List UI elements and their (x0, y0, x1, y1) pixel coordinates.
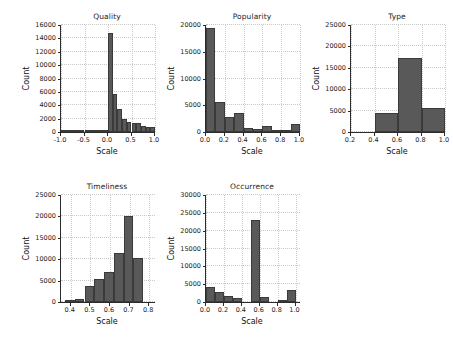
x-axis-tick-label: 0.0 (200, 306, 210, 314)
x-axis-tick-label: 0.8 (271, 306, 281, 314)
x-axis-tick-label: 0.6 (254, 306, 264, 314)
x-axis-tick-label: 0.5 (125, 136, 135, 144)
gridline-vertical (300, 25, 301, 132)
histogram-bar (233, 298, 242, 302)
histogram-bar (287, 290, 296, 302)
plot-area-timeliness (60, 195, 155, 303)
gridline-horizontal (61, 24, 155, 25)
x-axis-tick-label: 0.8 (275, 136, 285, 144)
gridline-vertical (281, 25, 282, 132)
histogram-bar (234, 113, 243, 132)
x-axis-tick-label: -1.0 (54, 136, 67, 144)
x-axis-tick-label: 0.6 (256, 136, 266, 144)
gridline-horizontal (351, 24, 445, 25)
histogram-bar (94, 279, 104, 302)
x-axis-label-popularity: Scale (205, 147, 299, 156)
histogram-bar (224, 296, 233, 302)
chart-panel-popularity: Popularity050001000015000200000.00.20.40… (163, 12, 303, 162)
plot-area-popularity (205, 25, 300, 133)
histogram-bar (150, 127, 155, 132)
histogram-bar (251, 220, 260, 302)
gridline-horizontal (351, 45, 445, 46)
gridline-horizontal (61, 215, 155, 216)
gridline-horizontal (206, 194, 300, 195)
chart-title-occurrence: Occurrence (205, 182, 299, 191)
histogram-bar (206, 28, 215, 132)
gridline-vertical (262, 25, 263, 132)
gridline-vertical (132, 25, 133, 132)
chart-panel-timeliness: Timeliness05000100001500020000250000.40.… (18, 182, 158, 332)
gridline-horizontal (206, 51, 300, 52)
x-axis-tick-label: 0.0 (200, 136, 210, 144)
x-axis-tick-label: 0.5 (84, 306, 94, 314)
y-axis-tick-mark (58, 38, 61, 39)
chart-title-type: Type (350, 12, 444, 21)
histogram-bar (260, 297, 269, 302)
x-axis-tick-label: 0.2 (218, 306, 228, 314)
y-axis-label-occurrence: Count (167, 195, 176, 302)
y-axis-tick-mark (58, 238, 61, 239)
histogram-bar (278, 300, 287, 302)
histogram-bar (281, 130, 290, 132)
histogram-bar (225, 117, 234, 133)
gridline-vertical (149, 195, 150, 302)
x-axis-tick-label: 0.6 (392, 136, 402, 144)
histogram-bar (422, 108, 446, 132)
gridline-vertical (155, 25, 156, 132)
chart-panel-occurrence: Occurrence050001000015000200002500030000… (163, 182, 303, 332)
y-axis-tick-mark (58, 281, 61, 282)
histogram-bar (114, 253, 124, 302)
gridline-horizontal (61, 237, 155, 238)
x-axis-tick-label: 0.0 (102, 136, 112, 144)
x-axis-tick-label: 1.0 (294, 136, 304, 144)
histogram-bar (262, 126, 271, 132)
y-axis-tick-mark (348, 89, 351, 90)
y-axis-tick-mark (203, 195, 206, 196)
gridline-horizontal (61, 194, 155, 195)
x-axis-tick-label: 1.0 (439, 136, 449, 144)
gridline-vertical (85, 25, 86, 132)
histogram-bar (244, 128, 253, 132)
gridline-vertical (61, 25, 62, 132)
chart-title-timeliness: Timeliness (60, 182, 154, 191)
y-axis-tick-mark (58, 65, 61, 66)
y-axis-tick-mark (203, 79, 206, 80)
histogram-bar (206, 287, 215, 302)
y-axis-tick-mark (58, 259, 61, 260)
histogram-bar (215, 292, 224, 302)
x-axis-tick-label: 0.8 (143, 306, 153, 314)
y-axis-tick-mark (203, 213, 206, 214)
histogram-bar (75, 299, 85, 302)
gridline-horizontal (206, 78, 300, 79)
x-axis-label-quality: Scale (60, 147, 154, 156)
y-axis-tick-mark (203, 266, 206, 267)
y-axis-tick-mark (58, 302, 61, 303)
histogram-bar (375, 113, 399, 132)
x-axis-tick-label: 0.4 (237, 136, 247, 144)
x-axis-tick-label: 1.0 (149, 136, 159, 144)
y-axis-tick-mark (348, 25, 351, 26)
x-axis-tick-label: 0.2 (345, 136, 355, 144)
y-axis-tick-mark (58, 25, 61, 26)
gridline-vertical (244, 25, 245, 132)
gridline-vertical (351, 25, 352, 132)
y-axis-label-quality: Count (22, 25, 31, 132)
plot-area-type (350, 25, 445, 133)
y-axis-tick-mark (203, 105, 206, 106)
histogram-bar (133, 258, 143, 303)
y-axis-label-timeliness: Count (22, 195, 31, 302)
histogram-bar (398, 58, 422, 132)
y-axis-tick-mark (58, 119, 61, 120)
x-axis-tick-label: 0.4 (236, 306, 246, 314)
x-axis-tick-label: -0.5 (77, 136, 90, 144)
y-axis-label-type: Count (312, 25, 321, 132)
x-axis-label-type: Scale (350, 147, 444, 156)
histogram-bar (124, 216, 134, 302)
plot-area-quality (60, 25, 155, 133)
y-axis-tick-mark (203, 249, 206, 250)
x-axis-tick-label: 0.4 (65, 306, 75, 314)
gridline-horizontal (206, 212, 300, 213)
histogram-bar (272, 130, 281, 132)
y-axis-tick-mark (203, 25, 206, 26)
histogram-bar (253, 129, 262, 132)
